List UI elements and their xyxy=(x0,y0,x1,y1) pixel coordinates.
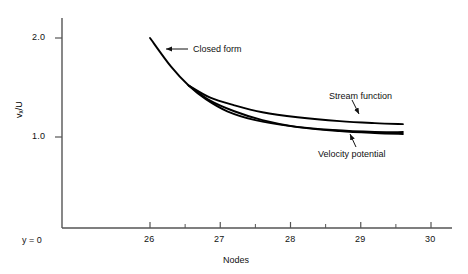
annotation-stream-function: Stream function xyxy=(329,92,392,101)
annotation-closed-form: Closed form xyxy=(193,45,242,54)
y-axis-title-sub: x xyxy=(17,110,24,113)
x-axis-ticks xyxy=(150,222,431,228)
x-tick-label-30: 30 xyxy=(425,235,435,244)
annotation-velocity-potential: Velocity potential xyxy=(318,150,386,159)
x-tick-label-26: 26 xyxy=(144,235,154,244)
leader-line-stream-function xyxy=(352,100,359,114)
origin-label: y = 0 xyxy=(22,236,42,245)
x-tick-label-29: 29 xyxy=(355,235,365,244)
x-tick-label-27: 27 xyxy=(214,235,224,244)
y-axis-ticks xyxy=(55,38,62,137)
y-tick-label-1.0: 1.0 xyxy=(32,132,45,141)
x-axis-title: Nodes xyxy=(223,256,249,265)
y-axis-title-base: v xyxy=(14,114,24,119)
chart-figure: vx/U 2.0 1.0 y = 0 26 27 28 29 30 Nodes … xyxy=(0,0,468,274)
x-tick-label-28: 28 xyxy=(285,235,295,244)
y-axis-title-tail: /U xyxy=(14,101,24,110)
y-axis-title: vx/U xyxy=(14,101,24,118)
leader-line-velocity-potential xyxy=(350,134,356,147)
plot-area xyxy=(0,0,468,274)
y-tick-label-2.0: 2.0 xyxy=(32,33,45,42)
data-curves xyxy=(150,38,403,134)
